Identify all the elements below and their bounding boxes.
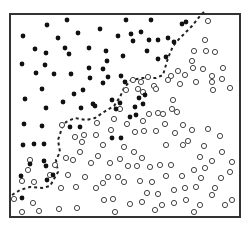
filled-point (56, 36, 61, 41)
open-point (210, 87, 215, 92)
open-point (135, 86, 140, 91)
filled-point (106, 75, 111, 80)
open-point (72, 134, 77, 139)
open-point (63, 155, 68, 160)
open-point (200, 66, 205, 71)
open-point (191, 48, 196, 53)
open-point (222, 202, 227, 207)
open-point (134, 163, 139, 168)
open-point (130, 77, 135, 82)
plot-frame (10, 14, 240, 217)
filled-point (42, 159, 47, 164)
filled-point (68, 125, 73, 130)
open-point (19, 209, 24, 214)
open-point (131, 149, 136, 154)
open-point (189, 58, 194, 63)
open-point (179, 173, 184, 178)
filled-point (67, 52, 72, 57)
open-point (88, 160, 93, 165)
filled-point (143, 93, 148, 98)
filled-point (87, 66, 92, 71)
filled-point (40, 124, 45, 129)
open-point (169, 106, 174, 111)
open-point (132, 129, 137, 134)
filled-point (23, 97, 28, 102)
open-point (163, 173, 168, 178)
open-point (155, 110, 160, 115)
open-point (227, 169, 232, 174)
filled-point (129, 32, 134, 37)
filled-point (139, 30, 144, 35)
filled-point (156, 57, 161, 62)
filled-point (52, 72, 57, 77)
open-point (157, 162, 162, 167)
open-point (217, 133, 222, 138)
open-point (70, 157, 75, 162)
open-point (229, 159, 234, 164)
open-point (153, 86, 158, 91)
open-point (182, 72, 187, 77)
open-point (177, 81, 182, 86)
open-point (146, 111, 151, 116)
open-point (155, 191, 160, 196)
open-point (205, 18, 210, 23)
filled-point (124, 18, 129, 23)
open-point (165, 77, 170, 82)
open-point (30, 200, 35, 205)
open-point (115, 174, 120, 179)
open-point (101, 197, 106, 202)
open-point (77, 149, 82, 154)
boundary-line (12, 12, 204, 195)
filled-point (110, 98, 115, 103)
open-point (139, 155, 144, 160)
open-point (227, 85, 232, 90)
filled-point (137, 96, 142, 101)
open-point (172, 130, 177, 135)
filled-point (105, 59, 110, 64)
filled-point (141, 102, 146, 107)
open-point (11, 196, 16, 201)
open-point (74, 205, 79, 210)
filled-point (44, 51, 49, 56)
open-point (108, 127, 113, 132)
open-point (203, 48, 208, 53)
open-point (189, 127, 194, 132)
open-point (193, 79, 198, 84)
filled-point (21, 143, 26, 148)
filled-point (131, 39, 136, 44)
open-point (123, 87, 128, 92)
open-point (153, 128, 158, 133)
open-point (125, 163, 130, 168)
decision-boundary (12, 12, 204, 195)
filled-point (147, 38, 152, 43)
filled-point (45, 178, 50, 183)
open-point (137, 178, 142, 183)
open-point (202, 37, 207, 42)
open-point (202, 165, 207, 170)
open-point (175, 68, 180, 73)
filled-point (128, 115, 133, 120)
open-point (198, 175, 203, 180)
open-point (117, 156, 122, 161)
open-point (171, 200, 176, 205)
open-point (180, 122, 185, 127)
filled-point (61, 100, 66, 105)
filled-point (78, 125, 83, 130)
open-point (111, 116, 116, 121)
filled-point (116, 34, 121, 39)
filled-point (164, 55, 169, 60)
filled-point (42, 142, 47, 147)
filled-point (20, 196, 25, 201)
open-point (197, 202, 202, 207)
open-circle-points (11, 18, 234, 214)
open-point (121, 144, 126, 149)
open-point (147, 164, 152, 169)
filled-point (184, 20, 189, 25)
open-point (95, 153, 100, 158)
open-point (183, 197, 188, 202)
open-point (73, 184, 78, 189)
open-point (182, 185, 187, 190)
open-point (81, 132, 86, 137)
open-point (144, 190, 149, 195)
filled-point (133, 105, 138, 110)
